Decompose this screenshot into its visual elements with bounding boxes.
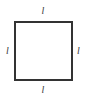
square-shape <box>14 21 73 81</box>
side-label-left: l <box>3 46 12 56</box>
side-label-bottom: l <box>0 85 86 95</box>
geometry-figure: l l l l <box>0 0 86 104</box>
side-label-right: l <box>74 46 83 56</box>
side-label-top: l <box>0 6 86 16</box>
